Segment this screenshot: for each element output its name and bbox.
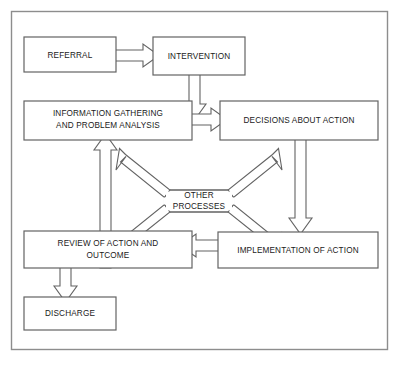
flowchart-diagram: OTHER PROCESSES REFERRAL INTERVENTION IN… xyxy=(0,0,399,365)
node-information-gathering[interactable]: INFORMATION GATHERING AND PROBLEM ANALYS… xyxy=(24,101,192,140)
node-information-gathering-label-line2: AND PROBLEM ANALYSIS xyxy=(56,121,160,130)
node-review-of-action-box[interactable] xyxy=(24,231,192,268)
node-decisions-about-action-label: DECISIONS ABOUT ACTION xyxy=(244,116,355,125)
other-processes-label-line2: PROCESSES xyxy=(173,202,226,211)
node-review-of-action-label-line1: REVIEW OF ACTION AND xyxy=(58,239,159,248)
node-decisions-about-action[interactable]: DECISIONS ABOUT ACTION xyxy=(220,101,378,140)
node-discharge[interactable]: DISCHARGE xyxy=(24,297,116,330)
node-implementation-of-action-label: IMPLEMENTATION OF ACTION xyxy=(237,246,359,255)
figure-caption xyxy=(6,356,156,365)
node-implementation-of-action[interactable]: IMPLEMENTATION OF ACTION xyxy=(218,232,378,268)
node-intervention-label: INTERVENTION xyxy=(168,52,231,61)
node-discharge-label: DISCHARGE xyxy=(45,309,95,318)
bowtie-arm-upper-left xyxy=(116,149,170,198)
node-review-of-action[interactable]: REVIEW OF ACTION AND OUTCOME xyxy=(24,231,192,268)
bowtie-arm-upper-right xyxy=(228,149,282,198)
other-processes-label-line1: OTHER xyxy=(184,191,213,200)
node-intervention[interactable]: INTERVENTION xyxy=(153,37,245,75)
flowchart-canvas: OTHER PROCESSES REFERRAL INTERVENTION IN… xyxy=(0,0,399,365)
node-information-gathering-label-line1: INFORMATION GATHERING xyxy=(53,109,163,118)
arrow-referral-to-intervention xyxy=(112,44,159,67)
arrow-decisions-to-implementation xyxy=(289,137,312,234)
node-referral-label: REFERRAL xyxy=(48,51,93,60)
node-review-of-action-label-line2: OUTCOME xyxy=(87,251,130,260)
node-referral[interactable]: REFERRAL xyxy=(24,37,116,72)
